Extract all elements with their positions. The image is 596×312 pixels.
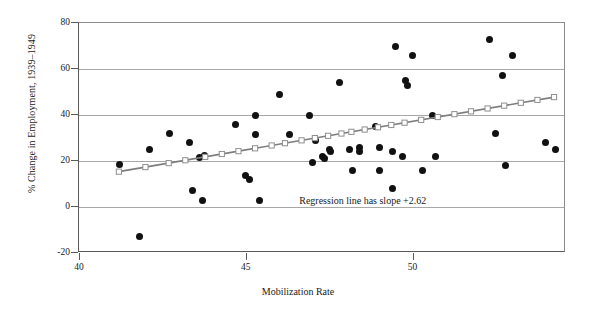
regression-line-marker bbox=[468, 109, 473, 114]
regression-line-marker bbox=[203, 154, 208, 159]
regression-line-marker bbox=[435, 114, 440, 119]
regression-line-marker bbox=[518, 100, 523, 105]
x-axis-tick bbox=[246, 253, 247, 260]
scatter-plot-figure: % Change in Employment, 1939–1949 Mobili… bbox=[0, 0, 596, 312]
x-axis-tick-label: 40 bbox=[64, 262, 94, 272]
regression-line-marker bbox=[269, 143, 274, 148]
plot-area: Regression line has slope +2.62 404550 bbox=[78, 22, 565, 252]
regression-line-marker bbox=[362, 127, 367, 132]
regression-line-marker bbox=[402, 120, 407, 125]
regression-line-marker bbox=[219, 151, 224, 156]
regression-line-marker bbox=[143, 165, 148, 170]
regression-line-marker bbox=[166, 161, 171, 166]
y-axis-tick bbox=[71, 22, 78, 23]
x-axis-tick-label: 45 bbox=[231, 262, 261, 272]
regression-line-marker bbox=[535, 97, 540, 102]
regression-line-marker bbox=[551, 95, 556, 100]
regression-line-marker bbox=[312, 135, 317, 140]
regression-line-marker bbox=[236, 149, 241, 154]
regression-line-marker bbox=[326, 133, 331, 138]
regression-line-marker bbox=[299, 138, 304, 143]
y-axis-tick-label: 0 bbox=[38, 201, 70, 211]
x-axis-title: Mobilization Rate bbox=[0, 286, 596, 297]
y-axis-tick-label: 60 bbox=[38, 63, 70, 73]
y-axis-tick bbox=[71, 160, 78, 161]
regression-line-marker bbox=[375, 125, 380, 130]
x-axis-tick-label: 50 bbox=[398, 262, 428, 272]
regression-line-marker bbox=[116, 169, 121, 174]
regression-line-marker bbox=[485, 106, 490, 111]
regression-line-marker bbox=[183, 158, 188, 163]
y-axis-tick bbox=[71, 206, 78, 207]
regression-line-marker bbox=[419, 117, 424, 122]
regression-line-marker bbox=[349, 129, 354, 134]
regression-line-marker bbox=[339, 131, 344, 136]
y-axis-tick-label: 80 bbox=[38, 17, 70, 27]
y-axis-tick-label: -20 bbox=[38, 247, 70, 257]
regression-line-marker bbox=[252, 146, 257, 151]
x-axis-tick bbox=[413, 253, 414, 260]
y-axis-tick-label: 20 bbox=[38, 155, 70, 165]
y-axis-tick bbox=[71, 252, 78, 253]
regression-line-marker bbox=[282, 141, 287, 146]
x-axis-tick bbox=[79, 253, 80, 260]
y-axis-tick bbox=[71, 68, 78, 69]
y-axis-title: % Change in Employment, 1939–1949 bbox=[26, 0, 37, 229]
y-axis-tick-label: 40 bbox=[38, 109, 70, 119]
regression-line bbox=[79, 23, 564, 251]
regression-line-marker bbox=[452, 112, 457, 117]
regression-annotation: Regression line has slope +2.62 bbox=[299, 195, 426, 206]
regression-line-marker bbox=[502, 103, 507, 108]
regression-line-marker bbox=[389, 122, 394, 127]
y-axis-tick bbox=[71, 114, 78, 115]
